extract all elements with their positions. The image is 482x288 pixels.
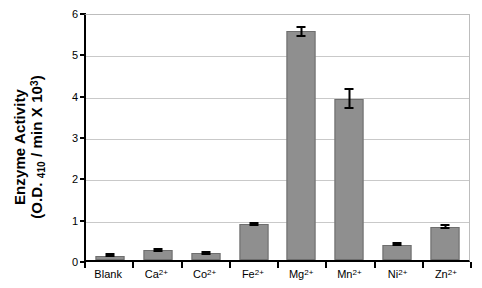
x-axis-label-charge: 2+: [304, 268, 313, 277]
x-axis-label-charge: 2+: [352, 268, 361, 277]
x-axis-tick-labels: BlankCa2+Co2+Fe2+Mg2+Mn2+Ni2+Zn2+: [84, 268, 470, 288]
x-axis-tick-label: Mn2+: [325, 268, 373, 288]
x-axis-tick-label: Zn2+: [422, 268, 470, 288]
y-axis-tick-label: 3: [72, 132, 78, 144]
bar-slot: [134, 15, 182, 260]
bar-slot: [230, 15, 278, 260]
error-bar: [393, 242, 402, 246]
error-bar-cap-bottom: [153, 250, 162, 252]
bar: [239, 224, 268, 260]
x-axis-label-charge: 2+: [398, 268, 407, 277]
error-bar-cap-top: [441, 224, 450, 226]
y-axis-tick-label: 5: [72, 49, 78, 61]
y-axis-tick-label: 2: [72, 173, 78, 185]
bar: [431, 227, 460, 260]
error-bar: [153, 248, 162, 252]
bar-slot: [182, 15, 230, 260]
error-bar-cap-bottom: [201, 253, 210, 255]
error-bar: [105, 253, 114, 257]
x-axis-label-charge: 2+: [448, 268, 457, 277]
error-bar-cap-top: [297, 26, 306, 28]
y-axis-title-line2: (O.D. 410 / min X 103): [28, 75, 47, 219]
error-bar: [201, 251, 210, 255]
bar: [335, 99, 364, 260]
x-axis-tick-label: Ca2+: [132, 268, 180, 288]
error-bar: [297, 26, 306, 37]
error-bar: [345, 88, 354, 109]
bar-slot: [373, 15, 421, 260]
y-axis-title-superscript: 3: [29, 80, 40, 86]
x-axis-tick-mark: [470, 262, 472, 268]
bar-chart-figure: Enzyme Activity (O.D. 410 / min X 103) 0…: [0, 0, 482, 288]
y-axis-tick-label: 4: [72, 91, 78, 103]
x-axis-label-text: Mn: [337, 268, 352, 280]
x-axis-tick-label: Co2+: [181, 268, 229, 288]
bar-slot: [278, 15, 326, 260]
y-axis-title-prefix: (O.D.: [28, 178, 45, 219]
x-axis-label-charge: 2+: [255, 268, 264, 277]
x-axis-tick-label: Fe2+: [229, 268, 277, 288]
x-axis-label-text: Ni: [388, 268, 398, 280]
y-axis-tick-label: 1: [72, 215, 78, 227]
y-axis-title-mid: / min X 10: [28, 86, 45, 161]
y-axis-tick-labels: 0123456: [60, 0, 86, 288]
error-bar-cap-bottom: [297, 35, 306, 37]
plot-area: [84, 14, 470, 262]
y-axis-title-suffix: ): [28, 75, 45, 80]
x-axis-label-text: Ca: [145, 268, 159, 280]
error-bar-cap-bottom: [393, 244, 402, 246]
bar-slot: [325, 15, 373, 260]
x-axis-tick-label: Mg2+: [277, 268, 325, 288]
y-axis-title: Enzyme Activity (O.D. 410 / min X 103): [0, 0, 58, 270]
x-axis-label-charge: 2+: [159, 268, 168, 277]
x-axis-label-text: Mg: [289, 268, 304, 280]
y-axis-tick-label: 0: [72, 256, 78, 268]
error-bar-cap-top: [345, 88, 354, 90]
x-axis-label-text: Fe: [242, 268, 255, 280]
bar: [383, 245, 412, 260]
error-bar: [249, 222, 258, 226]
x-axis-tick-label: Ni2+: [374, 268, 422, 288]
error-bar-cap-bottom: [345, 107, 354, 109]
error-bar-cap-bottom: [105, 255, 114, 257]
y-axis-title-line1: Enzyme Activity: [11, 89, 29, 205]
x-axis-label-text: Co: [193, 268, 207, 280]
error-bar-line: [348, 88, 350, 109]
error-bar-cap-bottom: [249, 224, 258, 226]
bar-slot: [421, 15, 469, 260]
error-bar-cap-bottom: [441, 227, 450, 229]
bar-series: [86, 15, 469, 260]
error-bar: [441, 224, 450, 230]
bar: [287, 31, 316, 260]
bar-slot: [86, 15, 134, 260]
x-axis-label-text: Blank: [94, 268, 122, 280]
y-axis-title-subscript: 410: [36, 161, 47, 178]
x-axis-label-charge: 2+: [207, 268, 216, 277]
y-axis-tick-label: 6: [72, 8, 78, 20]
x-axis-label-text: Zn: [435, 268, 448, 280]
x-axis-tick-label: Blank: [84, 268, 132, 288]
